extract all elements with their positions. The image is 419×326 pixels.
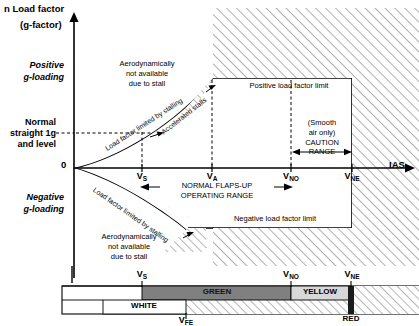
negative-g-loading-label-line1: Negative [0,192,64,202]
y-axis-title-line1: n Load factor [4,4,64,15]
asi-white-arc-label: WHITE [104,302,184,311]
chart-vno-subscript: NO [289,175,299,182]
asi-vs-subscript: S [143,273,147,280]
upper-stall-region-label-line1: Aerodynamically [92,60,202,68]
upper-stall-region-label-line2: not available [92,70,202,78]
chart-va-label: VA [200,171,224,182]
x-axis-label: IAS [389,160,405,171]
asi-bar-lower-hatch [186,300,350,314]
asi-vno-label: VNO [277,269,305,280]
lower-stall-region-label-line2: not available [74,243,184,251]
asi-red-line-label: RED [330,315,372,324]
chart-vne-label: VNE [338,171,366,182]
chart-vne-subscript: NE [350,175,359,182]
asi-yellow-arc-label: YELLOW [291,288,349,297]
asi-vfe-label: VFE [173,315,199,326]
negative-load-factor-limit-label: Negative load factor limit [205,215,345,223]
asi-vfe-subscript: FE [185,319,193,326]
normal-operating-range-label-line1: NORMAL FLAPS-UP [160,182,274,190]
normal-operating-range-label-line2: OPERATING RANGE [160,192,274,200]
one-g-label-line2: straight 1g [0,128,56,138]
asi-vne-subscript: NE [350,273,359,280]
asi-green-arc-label: GREEN [182,288,252,297]
chart-va-subscript: A [213,175,218,182]
asi-vne-label: VNE [338,269,366,280]
y-axis-title-line2: (g-factor) [20,20,62,31]
negative-g-loading-label-line2: g-loading [0,204,64,214]
asi-vno-subscript: NO [289,273,299,280]
asi-bar-beyond-vne-hatch [350,286,419,314]
caution-range-label-line2: air only) [292,129,352,137]
vn-diagram-page: n Load factor (g-factor) Positive g-load… [0,0,419,326]
one-g-label-line3: and level [0,139,56,149]
chart-vno-label: VNO [277,171,305,182]
asi-colour-bar [62,281,419,319]
positive-g-loading-label-line1: Positive [0,60,64,70]
chart-vs-label: VS [130,171,154,182]
upper-stall-region-label-line3: due to stall [92,80,202,88]
one-g-label-line1: Normal [0,117,56,127]
positive-g-loading-label-line2: g-loading [0,72,64,82]
caution-range-label-line4: RANGE [302,148,342,156]
positive-load-factor-limit-label: Positive load factor limit [224,82,354,90]
caution-range-label-line1: (Smooth [292,119,352,127]
lower-stall-region-label-line3: due to stall [74,253,184,261]
asi-vs-label: VS [130,269,154,280]
chart-vs-subscript: S [143,175,147,182]
origin-label: 0 [61,160,66,171]
